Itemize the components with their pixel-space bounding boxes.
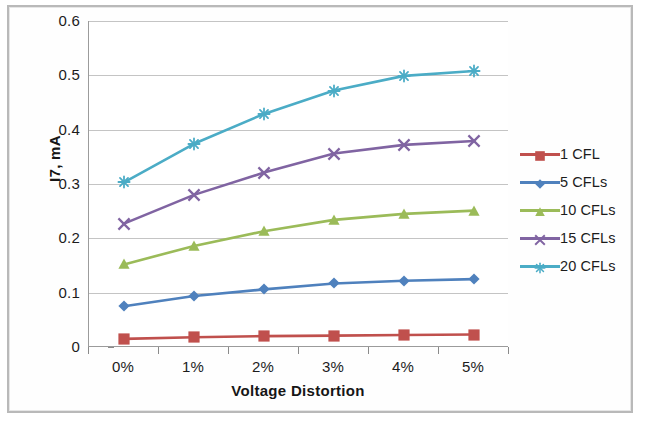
series-line: [124, 335, 474, 339]
x-tick-mark: [508, 347, 509, 354]
data-point-marker: [397, 207, 411, 221]
x-tick-mark: [228, 347, 229, 354]
data-point-marker: [117, 217, 131, 231]
series-line: [124, 279, 474, 306]
x-tick-mark: [88, 347, 89, 354]
data-point-marker: [327, 329, 341, 343]
data-point-marker: [397, 328, 411, 342]
legend-marker-icon: [534, 148, 546, 160]
y-tick-label: 0.2: [34, 229, 80, 246]
data-point-marker: [467, 204, 481, 218]
x-tick-mark: [158, 347, 159, 354]
legend-label: 15 CFLs: [560, 230, 616, 246]
data-point-marker: [117, 299, 131, 313]
data-point-marker: [467, 134, 481, 148]
data-point-marker: [187, 188, 201, 202]
legend-item: 15 CFLs: [520, 224, 632, 252]
data-point-marker: [117, 257, 131, 271]
x-tick-mark: [438, 347, 439, 354]
data-point-marker: [187, 137, 201, 151]
data-point-marker: [467, 328, 481, 342]
x-tick-label: 2%: [233, 358, 293, 375]
y-tick-label: 0: [34, 338, 80, 355]
series-lines: [89, 21, 509, 347]
data-point-marker: [327, 276, 341, 290]
legend-swatch-asterisk-icon: [520, 258, 560, 274]
legend-marker-icon: [534, 260, 546, 272]
x-tick-mark: [368, 347, 369, 354]
data-point-marker: [187, 239, 201, 253]
legend-swatch-x-icon: [520, 230, 560, 246]
legend-label: 5 CFLs: [560, 174, 607, 190]
x-tick-label: 0%: [93, 358, 153, 375]
y-tick-label: 0.1: [34, 284, 80, 301]
data-point-marker: [117, 175, 131, 189]
data-point-marker: [117, 332, 131, 346]
data-point-marker: [327, 147, 341, 161]
legend: 1 CFL 5 CFLs 10 CFLs 15 CFLs 20 CFLs: [520, 140, 632, 280]
legend-marker-icon: [534, 232, 546, 244]
data-point-marker: [257, 282, 271, 296]
data-point-marker: [467, 64, 481, 78]
data-point-marker: [397, 274, 411, 288]
legend-label: 20 CFLs: [560, 258, 616, 274]
line-chart: I7, mA 00.10.20.30.40.50.6: [0, 0, 655, 422]
legend-swatch-triangle-icon: [520, 202, 560, 218]
x-tick-mark: [298, 347, 299, 354]
data-point-marker: [257, 166, 271, 180]
legend-item: 10 CFLs: [520, 196, 632, 224]
data-point-marker: [257, 329, 271, 343]
data-point-marker: [257, 224, 271, 238]
legend-swatch-diamond-icon: [520, 174, 560, 190]
data-point-marker: [257, 107, 271, 121]
legend-item: 5 CFLs: [520, 168, 632, 196]
x-tick-label: 1%: [163, 358, 223, 375]
x-tick-label: 3%: [303, 358, 363, 375]
series-line: [124, 71, 474, 182]
x-tick-label: 4%: [373, 358, 433, 375]
data-point-marker: [397, 69, 411, 83]
y-tick-label: 0.5: [34, 66, 80, 83]
plot-area: [88, 21, 508, 347]
y-axis: 00.10.20.30.40.50.6: [20, 21, 80, 347]
legend-label: 1 CFL: [560, 146, 600, 162]
y-tick-label: 0.3: [34, 175, 80, 192]
y-tick-label: 0.4: [34, 121, 80, 138]
legend-marker-icon: [534, 176, 546, 188]
data-point-marker: [397, 138, 411, 152]
legend-item: 20 CFLs: [520, 252, 632, 280]
data-point-marker: [187, 289, 201, 303]
x-tick-label: 5%: [443, 358, 503, 375]
legend-marker-icon: [534, 204, 546, 216]
y-tick-mark: [108, 347, 114, 348]
data-point-marker: [327, 84, 341, 98]
series-line: [124, 211, 474, 265]
data-point-marker: [467, 272, 481, 286]
chart-screenshot: I7, mA 00.10.20.30.40.50.6: [0, 0, 655, 422]
legend-label: 10 CFLs: [560, 202, 616, 218]
x-axis-title: Voltage Distortion: [88, 382, 508, 399]
data-point-marker: [327, 213, 341, 227]
data-point-marker: [187, 330, 201, 344]
y-tick-label: 0.6: [34, 12, 80, 29]
legend-item: 1 CFL: [520, 140, 632, 168]
legend-swatch-square-icon: [520, 146, 560, 162]
